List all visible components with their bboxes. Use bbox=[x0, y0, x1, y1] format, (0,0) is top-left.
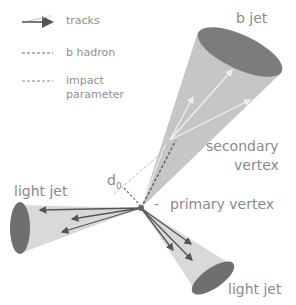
legend-b-hadron-label: b hadron bbox=[66, 46, 115, 59]
light-jet-bottom-cone bbox=[141, 208, 239, 301]
b-jet-label: b jet bbox=[236, 10, 267, 26]
b-jet-cone bbox=[141, 17, 289, 208]
light-jet-left-cone bbox=[10, 202, 141, 254]
secondary-vertex-label-line2: vertex bbox=[234, 157, 279, 173]
d0-subscript: 0 bbox=[116, 181, 122, 191]
primary-vertex-dot bbox=[138, 205, 144, 211]
primary-vertex-dash: - bbox=[154, 196, 159, 212]
d0-line bbox=[124, 188, 141, 206]
legend-impact-label: impact bbox=[66, 74, 104, 87]
legend-parameter-label: parameter bbox=[66, 88, 124, 101]
legend-tracks-label: tracks bbox=[66, 14, 100, 27]
light-jet-bottom-label: light jet bbox=[228, 281, 281, 297]
secondary-vertex-label-line1: secondary bbox=[206, 138, 279, 154]
primary-vertex-label: primary vertex bbox=[170, 196, 274, 212]
light-jet-left-label: light jet bbox=[14, 183, 67, 199]
d0-symbol: d bbox=[107, 172, 116, 188]
tracks-arrows-icon bbox=[22, 16, 52, 22]
b-tagging-diagram: tracks b hadron impact parameter b jet s… bbox=[0, 0, 296, 305]
d0-label: d0 bbox=[107, 172, 122, 194]
